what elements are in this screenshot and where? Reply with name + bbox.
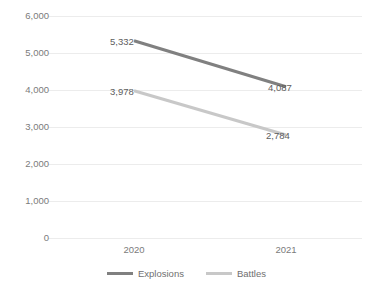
chart-legend: Explosions Battles <box>0 268 373 279</box>
series-lines <box>48 16 362 238</box>
legend-label-battles: Battles <box>237 268 266 279</box>
gridline-0 <box>48 238 362 239</box>
data-label-explosions-2020: 5,332 <box>110 36 134 47</box>
legend-swatch-battles <box>206 272 232 275</box>
x-axis-tick-2021: 2021 <box>256 244 316 255</box>
legend-item-explosions[interactable]: Explosions <box>107 268 184 279</box>
x-axis-tick-2020: 2020 <box>104 244 164 255</box>
series-line-explosions <box>134 41 286 87</box>
data-label-explosions-2021: 4,087 <box>268 82 292 93</box>
legend-item-battles[interactable]: Battles <box>206 268 266 279</box>
line-chart: 6,000 5,000 4,000 3,000 2,000 1,000 0 5,… <box>0 0 373 300</box>
legend-swatch-explosions <box>107 272 133 275</box>
series-line-battles <box>134 91 286 135</box>
legend-label-explosions: Explosions <box>138 268 184 279</box>
data-label-battles-2020: 3,978 <box>110 86 134 97</box>
data-label-battles-2021: 2,784 <box>266 130 290 141</box>
